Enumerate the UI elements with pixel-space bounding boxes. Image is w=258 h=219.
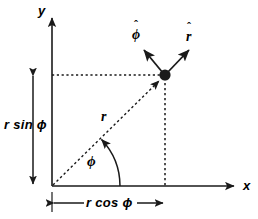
angle-label: ϕ — [87, 154, 96, 169]
r-hat-label: ˆ r — [186, 30, 191, 44]
polar-coordinate-diagram: y x ˆ ϕ ˆ r r ϕ r sin ϕ r cos ϕ — [0, 0, 258, 219]
radial-line-label: r — [101, 110, 106, 124]
point-marker — [159, 69, 170, 80]
r-cos-phi-label: r cos ϕ — [86, 196, 133, 209]
angle-arc — [102, 140, 121, 187]
r-hat-vector — [167, 50, 189, 73]
phi-hat-circumflex: ˆ — [134, 19, 138, 31]
phi-hat-label: ˆ ϕ — [132, 28, 140, 42]
x-axis-label: x — [243, 179, 250, 192]
diagram-canvas — [0, 0, 258, 219]
phi-hat-vector — [144, 50, 163, 73]
r-hat-circumflex: ˆ — [187, 21, 191, 33]
y-axis-label: y — [38, 4, 45, 17]
radial-line — [53, 81, 159, 185]
r-sin-phi-label: r sin ϕ — [4, 118, 47, 131]
